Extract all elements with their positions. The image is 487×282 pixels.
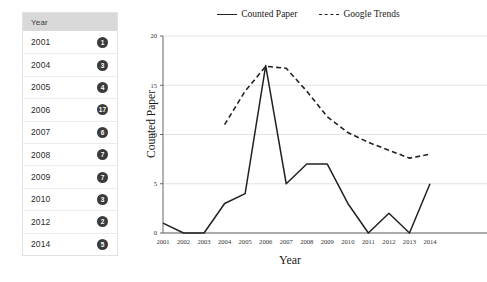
y-axis-title: Counted Paper xyxy=(145,69,157,179)
chart-panel: Counted Paper Google Trends 05101520 010… xyxy=(130,0,487,282)
table-row[interactable]: 20097 xyxy=(23,165,117,187)
x-tick-label: 2013 xyxy=(403,238,417,245)
y-tick-label: 5 xyxy=(154,180,158,187)
row-count-badge: 3 xyxy=(97,194,108,205)
gridlines xyxy=(163,36,487,233)
table-row[interactable]: 20122 xyxy=(23,210,117,232)
row-year-label: 2014 xyxy=(31,239,50,249)
x-tick-label: 2006 xyxy=(259,238,273,245)
table-row[interactable]: 20011 xyxy=(23,31,117,53)
row-count-badge: 2 xyxy=(97,216,108,227)
x-tick-label: 2002 xyxy=(177,238,190,245)
row-year-label: 2009 xyxy=(31,172,50,182)
year-count-table: Year 20011200432005420061720076200872009… xyxy=(22,12,118,256)
row-count-badge: 1 xyxy=(97,37,108,48)
x-axis-title: Year xyxy=(130,253,450,268)
x-tick-label: 2009 xyxy=(321,238,335,245)
row-count-badge: 7 xyxy=(97,172,108,183)
table-row[interactable]: 200617 xyxy=(23,98,117,120)
table-row[interactable]: 20054 xyxy=(23,76,117,98)
row-count-badge: 6 xyxy=(97,127,108,138)
row-count-badge: 7 xyxy=(97,149,108,160)
x-axis-ticks: 2001200220032004200520062007200820092010… xyxy=(156,238,437,245)
table-row[interactable]: 20076 xyxy=(23,121,117,143)
row-year-label: 2005 xyxy=(31,82,50,92)
row-count-badge: 3 xyxy=(97,60,108,71)
data-series-layer xyxy=(163,66,430,233)
table-row[interactable]: 20103 xyxy=(23,188,117,210)
series-line-counted-paper xyxy=(163,66,430,233)
row-year-label: 2008 xyxy=(31,150,50,160)
column-header-year: Year xyxy=(31,18,48,27)
x-tick-label: 2012 xyxy=(382,238,395,245)
row-count-badge: 5 xyxy=(97,239,108,250)
x-tick-label: 2011 xyxy=(362,238,375,245)
table-header-row: Year xyxy=(23,13,117,31)
x-tick-label: 2003 xyxy=(197,238,211,245)
table-row[interactable]: 20043 xyxy=(23,53,117,75)
x-tick-label: 2007 xyxy=(280,238,294,245)
row-year-label: 2007 xyxy=(31,127,50,137)
x-tick-label: 2004 xyxy=(218,238,232,245)
row-year-label: 2006 xyxy=(31,105,50,115)
row-year-label: 2001 xyxy=(31,37,50,47)
row-year-label: 2010 xyxy=(31,194,50,204)
row-year-label: 2004 xyxy=(31,60,50,70)
table-row[interactable]: 20087 xyxy=(23,143,117,165)
series-line-google-trends xyxy=(225,66,430,158)
x-tick-label: 2010 xyxy=(341,238,355,245)
x-tick-label: 2008 xyxy=(300,238,314,245)
row-count-badge: 4 xyxy=(97,82,108,93)
row-count-badge: 17 xyxy=(97,104,108,115)
row-year-label: 2012 xyxy=(31,217,50,227)
y-tick-label: 0 xyxy=(154,229,158,236)
plot-area: 05101520 010002000300040005000 200120022… xyxy=(130,0,487,282)
x-tick-label: 2005 xyxy=(239,238,253,245)
x-tick-label: 2014 xyxy=(423,238,437,245)
y-tick-label: 20 xyxy=(150,32,157,39)
table-body: 2001120043200542006172007620087200972010… xyxy=(23,31,117,255)
x-tick-label: 2001 xyxy=(156,238,169,245)
table-row[interactable]: 20145 xyxy=(23,233,117,255)
